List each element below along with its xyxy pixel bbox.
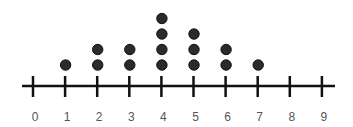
data-dot	[157, 29, 167, 39]
axis-tick-label: 2	[96, 110, 103, 124]
data-dot	[189, 60, 199, 70]
data-dot	[189, 29, 199, 39]
axis-tick-labels: 0123456789	[32, 110, 328, 124]
data-dot	[93, 60, 103, 70]
data-dot	[125, 44, 135, 54]
data-dot	[125, 60, 135, 70]
data-dot	[221, 44, 231, 54]
axis-tick-label: 7	[256, 110, 263, 124]
chart-canvas: 0123456789	[0, 0, 353, 127]
axis-tick-label: 6	[224, 110, 231, 124]
data-dot	[157, 44, 167, 54]
axis-tick-label: 5	[192, 110, 199, 124]
data-dot	[253, 60, 263, 70]
axis-tick-label: 0	[32, 110, 39, 124]
axis-tick-label: 3	[128, 110, 135, 124]
data-dot	[60, 60, 70, 70]
data-dot	[93, 44, 103, 54]
data-dot	[189, 44, 199, 54]
axis-tick-label: 8	[288, 110, 295, 124]
data-dots	[60, 13, 263, 70]
dot-plot-chart: 0123456789	[0, 0, 353, 127]
axis-tick-label: 4	[160, 110, 167, 124]
data-dot	[157, 13, 167, 23]
axis-tick-label: 9	[321, 110, 328, 124]
axis-tick-label: 1	[64, 110, 71, 124]
data-dot	[221, 60, 231, 70]
data-dot	[157, 60, 167, 70]
